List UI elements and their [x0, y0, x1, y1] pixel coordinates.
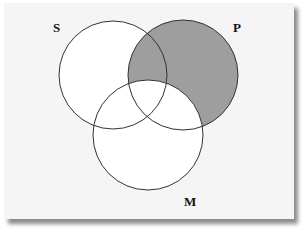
label-s: S — [53, 20, 60, 35]
venn-diagram: S P M — [0, 0, 305, 233]
label-p: P — [233, 20, 241, 35]
label-m: M — [184, 194, 196, 209]
